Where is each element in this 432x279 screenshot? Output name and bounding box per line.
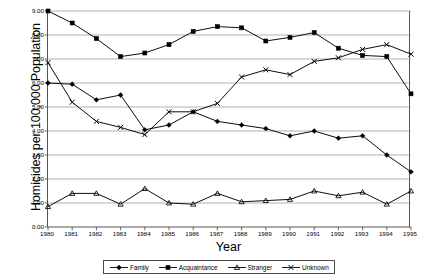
x-axis-title: Year <box>47 240 410 254</box>
legend-item-family[interactable]: Family <box>109 263 149 272</box>
point-family-1985 <box>167 123 172 128</box>
y-tick-label-1: 1.00 <box>18 200 44 206</box>
point-family-1982 <box>94 97 99 102</box>
legend-marker <box>117 265 122 270</box>
point-acquaintance-1992 <box>336 46 340 50</box>
point-family-1980 <box>46 81 51 86</box>
point-acquaintance-1987 <box>215 25 219 29</box>
y-tick-label-2: 2.00 <box>18 176 44 182</box>
y-tick-label-6: 6.00 <box>18 80 44 86</box>
point-family-1981 <box>70 82 75 87</box>
triangle-marker-icon <box>227 263 247 272</box>
point-acquaintance-1983 <box>119 55 123 59</box>
point-family-1991 <box>312 129 317 134</box>
point-acquaintance-1994 <box>385 55 389 59</box>
y-tick-label-9: 9.00 <box>18 8 44 14</box>
point-family-1992 <box>336 136 341 141</box>
point-family-1989 <box>263 126 268 131</box>
point-acquaintance-1980 <box>46 9 50 13</box>
legend-marker <box>166 265 170 269</box>
point-acquaintance-1986 <box>191 29 195 33</box>
chart-legend: FamilyAcquaintanceStrangerUnknown <box>103 260 335 274</box>
point-stranger-1995 <box>408 188 413 193</box>
point-family-1987 <box>215 119 220 124</box>
line-family <box>48 83 411 172</box>
point-acquaintance-1985 <box>167 43 171 47</box>
y-tick-label-5: 5.00 <box>18 104 44 110</box>
x-marker-icon <box>281 263 301 272</box>
point-acquaintance-1989 <box>264 39 268 43</box>
legend-item-acquaintance[interactable]: Acquaintance <box>158 263 218 272</box>
point-acquaintance-1988 <box>240 26 244 30</box>
point-acquaintance-1982 <box>94 37 98 41</box>
point-acquaintance-1981 <box>70 21 74 25</box>
y-tick-label-3: 3.00 <box>18 152 44 158</box>
point-acquaintance-1991 <box>312 31 316 35</box>
y-axis-ticks <box>45 11 48 227</box>
y-tick-label-4: 4.00 <box>18 128 44 134</box>
legend-label: Stranger <box>248 264 273 271</box>
point-acquaintance-1993 <box>361 53 365 57</box>
homicide-rate-line-chart: Homicides per 100,000 Population 0.001.0… <box>0 0 432 279</box>
x-tick-label-1995: 1995 <box>393 230 427 237</box>
point-family-1988 <box>239 123 244 128</box>
legend-item-unknown[interactable]: Unknown <box>281 263 329 272</box>
series-family <box>46 81 414 175</box>
y-tick-label-8: 8.00 <box>18 32 44 38</box>
series-stranger <box>45 186 413 209</box>
legend-item-stranger[interactable]: Stranger <box>227 263 273 272</box>
legend-label: Family <box>130 264 149 271</box>
legend-label: Acquaintance <box>179 264 218 271</box>
plot-svg <box>48 11 411 227</box>
plot-area <box>47 11 410 227</box>
line-stranger <box>48 189 411 207</box>
point-acquaintance-1995 <box>409 92 413 96</box>
point-acquaintance-1984 <box>143 51 147 55</box>
diamond-marker-icon <box>109 263 129 272</box>
line-unknown <box>48 45 411 135</box>
line-acquaintance <box>48 11 411 94</box>
point-family-1990 <box>288 133 293 138</box>
legend-label: Unknown <box>302 264 329 271</box>
y-axis-tick-labels: 0.001.002.003.004.005.006.007.008.009.00 <box>16 0 44 279</box>
point-acquaintance-1990 <box>288 35 292 39</box>
square-marker-icon <box>158 263 178 272</box>
y-tick-label-7: 7.00 <box>18 56 44 62</box>
